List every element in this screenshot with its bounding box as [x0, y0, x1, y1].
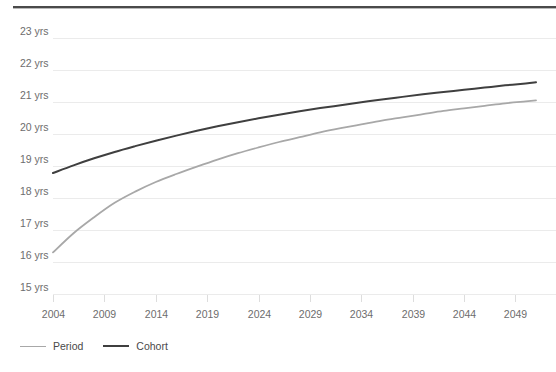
- x-axis-tick-label: 2039: [402, 308, 426, 320]
- y-axis-tick-label: 20 yrs: [20, 121, 49, 133]
- y-axis-labels: 23 yrs22 yrs21 yrs20 yrs19 yrs18 yrs17 y…: [20, 25, 49, 293]
- legend-swatch-cohort-icon: [103, 345, 129, 347]
- x-axis-labels: 2004200920142019202420292034203920442049: [42, 308, 528, 320]
- legend-swatch-period-icon: [20, 346, 46, 347]
- gridlines: [53, 39, 556, 295]
- chart-legend: PeriodCohort: [20, 340, 168, 352]
- y-axis-tick-label: 19 yrs: [20, 153, 49, 165]
- x-axis-tick-label: 2014: [145, 308, 169, 320]
- y-axis-tick-label: 15 yrs: [20, 281, 49, 293]
- line-chart: 23 yrs22 yrs21 yrs20 yrs19 yrs18 yrs17 y…: [0, 0, 556, 372]
- x-axis-tick-label: 2034: [350, 308, 374, 320]
- series-line-period: [53, 100, 536, 252]
- y-axis-tick-label: 17 yrs: [20, 217, 49, 229]
- x-axis-tick-label: 2009: [93, 308, 117, 320]
- y-axis-tick-label: 21 yrs: [20, 89, 49, 101]
- x-axis-tick-marks: [54, 295, 516, 302]
- legend-item-cohort[interactable]: Cohort: [103, 340, 168, 352]
- x-axis-tick-label: 2029: [299, 308, 323, 320]
- x-axis-tick-label: 2019: [196, 308, 220, 320]
- y-axis-tick-label: 23 yrs: [20, 25, 49, 37]
- legend-label: Cohort: [136, 340, 168, 352]
- data-series: [53, 82, 536, 252]
- x-axis-tick-label: 2024: [248, 308, 272, 320]
- y-axis-tick-label: 22 yrs: [20, 57, 49, 69]
- x-axis-tick-label: 2049: [504, 308, 528, 320]
- legend-item-period[interactable]: Period: [20, 340, 83, 352]
- y-axis-tick-label: 18 yrs: [20, 185, 49, 197]
- y-axis-tick-label: 16 yrs: [20, 249, 49, 261]
- series-line-cohort: [53, 82, 536, 173]
- chart-plot-area: 23 yrs22 yrs21 yrs20 yrs19 yrs18 yrs17 y…: [0, 0, 556, 372]
- legend-label: Period: [53, 340, 83, 352]
- x-axis-tick-label: 2004: [42, 308, 66, 320]
- x-axis-tick-label: 2044: [453, 308, 477, 320]
